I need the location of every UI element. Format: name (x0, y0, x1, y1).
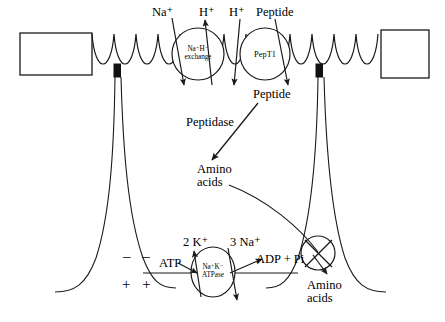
brush-border-membrane (92, 34, 378, 64)
label-amino-acids-serosa: Amino acids (307, 279, 342, 305)
cell-absorption-diagram: Na⁺ H⁺ H⁺ Peptide Na⁺H⁻ exchange PepT1 P… (0, 0, 445, 322)
label-positive-charges: + + (122, 277, 155, 293)
adjacent-cell-right (381, 30, 429, 78)
tight-junction-right (316, 64, 323, 77)
lateral-membrane-left-outer (55, 77, 115, 292)
label-peptidase: Peptidase (186, 116, 234, 129)
label-potassium-transport: 2 K⁺ (183, 236, 208, 249)
arrow-amino-acid-efflux (313, 255, 327, 274)
na-k-atpase-line1: Na⁺K⁻ (192, 263, 234, 271)
pept1-line1: PepT1 (243, 50, 287, 60)
label-peptide-lumen: Peptide (256, 6, 294, 19)
arrow-proton-influx (234, 19, 240, 85)
label-peptide-cytosol: Peptide (253, 88, 291, 101)
label-atp: ATP (159, 257, 181, 270)
label-na-k-atpase: Na⁺K⁻ ATPase (192, 263, 234, 280)
label-negative-charges: – – (123, 249, 154, 265)
na-h-exchanger-line1: Na⁺H⁻ (174, 45, 222, 53)
tight-junction-left (114, 64, 121, 77)
label-na-h-exchanger: Na⁺H⁻ exchange (174, 45, 222, 62)
label-amino-acids-cytosol: Amino acids (197, 163, 232, 189)
label-proton-lumen-left: H⁺ (199, 6, 215, 19)
label-sodium-lumen: Na⁺ (152, 6, 173, 19)
arrow-peptide-hydrolysis (212, 103, 258, 160)
na-k-atpase-line2: ATPase (192, 271, 234, 279)
label-adp-pi: ADP + Pi (256, 253, 304, 266)
amino-acids-serosa-line2: acids (307, 292, 342, 305)
amino-acids-cytosol-line2: acids (197, 176, 232, 189)
adjacent-cell-left (20, 33, 92, 75)
label-proton-lumen-right: H⁺ (229, 6, 245, 19)
na-h-exchanger-line2: exchange (174, 53, 222, 61)
label-pept1: PepT1 (243, 50, 287, 60)
label-sodium-transport: 3 Na⁺ (230, 236, 261, 249)
